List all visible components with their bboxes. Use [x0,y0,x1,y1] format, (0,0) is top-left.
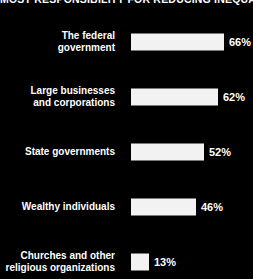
category-label-line1: Churches and other [21,249,115,260]
bar-row: Wealthy individuals 46% [0,179,253,234]
bar [131,88,218,105]
bar-row: State governments 52% [0,124,253,179]
bar-value-label: 62% [223,91,245,103]
category-label-line2: religious organizations [6,262,115,273]
bar [131,198,196,215]
category-label-line1: Large businesses [31,84,115,95]
category-label: Churches and other religious organizatio… [2,249,122,274]
chart-title: MOST RESPONSIBILITY FOR REDUCING INEQUAL… [0,0,253,5]
bar-track: 46% [131,198,253,215]
bar-value-label: 13% [154,256,176,268]
bar-chart: MOST RESPONSIBILITY FOR REDUCING INEQUAL… [0,0,253,279]
bar-rows: The federal government 66% Large busines… [0,14,253,279]
bar-row: Churches and other religious organizatio… [0,234,253,279]
category-label: Wealthy individuals [2,200,122,213]
bar-track: 52% [131,143,253,160]
category-label: Large businesses and corporations [2,84,122,109]
bar-value-label: 66% [229,36,251,48]
category-label-line2: and corporations [33,97,115,108]
bar [131,143,204,160]
category-label: The federal government [2,29,122,54]
category-label-line1: Wealthy individuals [22,200,115,211]
bar-row: Large businesses and corporations 62% [0,69,253,124]
category-label-line1: The federal [62,29,115,40]
bar-value-label: 52% [209,146,231,158]
bar-track: 62% [131,88,253,105]
category-label: State governments [2,145,122,158]
bar-row: The federal government 66% [0,14,253,69]
bar-track: 13% [131,253,253,270]
bar-value-label: 46% [201,201,223,213]
bar [131,253,149,270]
category-label-line2: government [58,42,115,53]
bar-track: 66% [131,33,253,50]
category-label-line1: State governments [25,145,115,156]
bar [131,33,224,50]
